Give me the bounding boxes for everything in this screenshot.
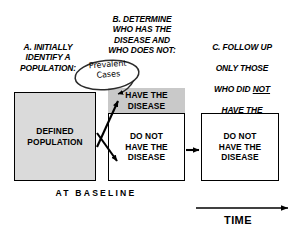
label-at-baseline: AT BASELINE (26, 188, 166, 198)
connector-layer (0, 0, 296, 235)
label-time: TIME (196, 214, 280, 226)
arrow-population-to-have-disease (97, 101, 118, 147)
label-prevalent-cases: Prevalent Cases (79, 58, 136, 82)
diagram-canvas: A. INITIALLY IDENTIFY A POPULATION: B. D… (0, 0, 296, 235)
arrow-population-to-no-disease (97, 133, 117, 161)
